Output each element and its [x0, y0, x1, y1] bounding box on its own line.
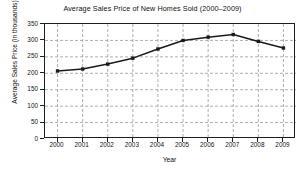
chart-container: Average Sales Price of New Homes Sold (2… [0, 0, 305, 170]
y-tick-label: 300 [12, 36, 38, 43]
y-tick-label: 250 [12, 52, 38, 59]
x-tick-mark [207, 138, 208, 142]
x-tick-mark [182, 138, 183, 142]
y-tick-label: 150 [12, 85, 38, 92]
x-tick-mark [132, 138, 133, 142]
x-tick-mark [257, 138, 258, 142]
x-tick-mark [232, 138, 233, 142]
x-axis-label: Year [44, 156, 295, 164]
y-tick-label: 200 [12, 69, 38, 76]
chart-title: Average Sales Price of New Homes Sold (2… [0, 4, 305, 13]
y-tick-label: 50 [12, 118, 38, 125]
x-tick-mark [282, 138, 283, 142]
y-tick-label: 0 [12, 135, 38, 142]
plot-area [44, 23, 295, 138]
y-tick-mark [40, 138, 44, 139]
y-tick-label: 100 [12, 102, 38, 109]
y-tick-label: 350 [12, 20, 38, 27]
x-tick-mark [57, 138, 58, 142]
x-tick-mark [107, 138, 108, 142]
x-tick-mark [157, 138, 158, 142]
data-series-line [45, 24, 296, 139]
x-tick-label: 2009 [267, 141, 297, 148]
x-tick-mark [82, 138, 83, 142]
